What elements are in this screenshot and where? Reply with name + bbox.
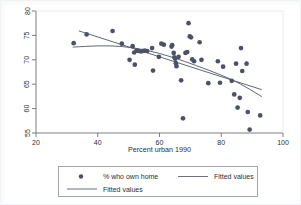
- scatter-point: [71, 41, 76, 46]
- x-tick-label: 20: [32, 139, 40, 146]
- scatter-point: [240, 69, 245, 74]
- scatter-point: [151, 68, 156, 73]
- scatter-point: [239, 46, 244, 51]
- x-axis-ticks: 20406080100: [32, 133, 289, 146]
- scatter-point: [130, 44, 135, 49]
- scatter-point: [181, 116, 186, 121]
- scatter-point: [237, 96, 242, 101]
- legend-marker-icon: [79, 174, 83, 178]
- x-axis-title: Percent urban 1990: [128, 145, 191, 154]
- scatter-point: [145, 49, 150, 54]
- scatter-point: [206, 81, 211, 86]
- scatter-point: [247, 127, 252, 132]
- x-tick-label: 100: [277, 139, 289, 146]
- scatter-point: [229, 78, 234, 83]
- scatter-point: [157, 55, 162, 60]
- y-tick-label: 60: [24, 105, 31, 113]
- x-tick-label: 40: [94, 139, 102, 146]
- scatter-point: [174, 64, 179, 69]
- scatter-point: [186, 21, 191, 26]
- scatter-point: [234, 61, 239, 66]
- y-tick-label: 55: [24, 129, 31, 137]
- y-tick-label: 75: [24, 31, 31, 39]
- scatter-point: [199, 57, 204, 62]
- y-tick-label: 65: [24, 80, 31, 88]
- scatter-point: [161, 42, 166, 47]
- y-tick-label: 80: [24, 7, 31, 15]
- scatter-point: [235, 105, 240, 110]
- legend: % who own home Fitted values Fitted valu…: [59, 167, 258, 197]
- scatter-chart: 556065707580 20406080100 Percent urban 1…: [0, 0, 301, 205]
- scatter-point: [84, 32, 89, 37]
- scatter-point: [232, 92, 237, 97]
- scatter-point: [185, 50, 190, 55]
- x-tick-label: 80: [217, 139, 225, 146]
- scatter-point: [192, 59, 197, 64]
- scatter-point: [258, 113, 263, 118]
- scatter-point: [245, 110, 250, 115]
- scatter-point: [176, 55, 181, 60]
- legend-box: [59, 167, 258, 197]
- scatter-point: [218, 80, 223, 85]
- scatter-point: [171, 51, 176, 56]
- scatter-point: [132, 62, 137, 67]
- scatter-point: [127, 57, 132, 62]
- plot-panel: [36, 11, 283, 133]
- scatter-point: [216, 59, 221, 64]
- scatter-point: [119, 41, 124, 46]
- figure-root: 556065707580 20406080100 Percent urban 1…: [0, 0, 301, 205]
- scatter-point: [189, 35, 194, 40]
- scatter-point: [221, 64, 226, 69]
- y-tick-label: 70: [24, 56, 31, 64]
- legend-label-fitted-1: Fitted values: [214, 173, 254, 180]
- legend-label-fitted-2: Fitted values: [103, 186, 143, 193]
- legend-label-own-home: % who own home: [103, 173, 158, 180]
- scatter-point: [110, 29, 115, 34]
- scatter-point: [179, 78, 184, 83]
- scatter-point: [150, 46, 155, 51]
- y-axis-ticks: 556065707580: [24, 7, 37, 137]
- scatter-point: [244, 61, 249, 66]
- scatter-point: [170, 43, 175, 48]
- scatter-point: [197, 40, 202, 45]
